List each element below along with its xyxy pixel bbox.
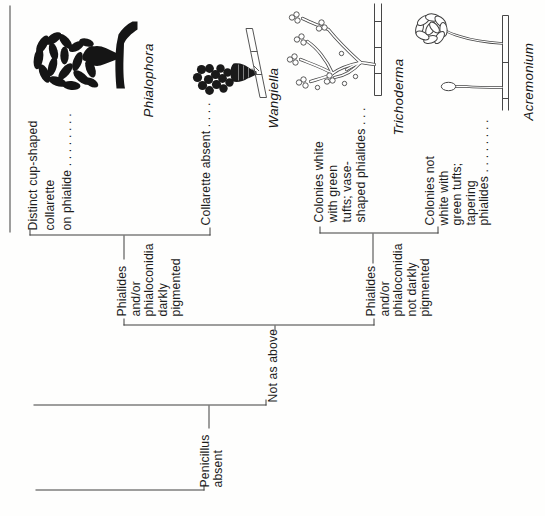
- key-bracket-level1: [33, 404, 266, 405]
- key-line-root-branch: [35, 489, 204, 490]
- key-leaf-wangiella-text: Collarette absent . . . .: [198, 102, 212, 225]
- figure-canvas: Penicillus absent Not as above Phialides…: [0, 0, 545, 516]
- key-node-darkly-pigmented: Phialides and/or phialoconidia darkly pi…: [115, 243, 183, 316]
- key-leaf-acremonium-text: Colonies not white with green tufts; tap…: [423, 119, 491, 225]
- conidial-cluster: [296, 76, 308, 87]
- key-line-top-rule: [9, 5, 10, 232]
- key-bracket-level2-bottom-foot: [373, 318, 374, 325]
- key-not-as-above-label: Not as above: [265, 328, 279, 402]
- genus-label-phialophora: Phialophora: [140, 43, 155, 117]
- key-root-label: Penicillus absent: [198, 434, 224, 487]
- illustration-acremonium: [410, 2, 514, 113]
- key-bracket-light-pair: [319, 232, 438, 233]
- genus-label-trichoderma: Trichoderma: [390, 58, 405, 135]
- key-bracket-light-bottom-foot: [437, 226, 438, 233]
- key-tick-penicillus: [208, 405, 209, 428]
- key-bracket-dark-pair: [29, 234, 210, 235]
- conidial-knot: [414, 13, 448, 45]
- key-bracket-light-top-foot: [319, 226, 320, 233]
- key-bracket-level2: [123, 324, 374, 325]
- key-leaf-phialophora-text: Distinct cup-shaped collarette on phiali…: [24, 113, 75, 230]
- key-root-line1: Penicillus: [198, 434, 211, 487]
- illustration-trichoderma: [284, 2, 388, 143]
- key-node-not-darkly-pigmented: Phialides and/or phialoconidia not darkl…: [364, 243, 432, 316]
- illustration-phialophora: [20, 1, 140, 101]
- key-root-line2: absent: [211, 434, 224, 487]
- key-bracket-level2-top-foot: [123, 318, 124, 325]
- key-bracket-dark-bottom-foot: [209, 227, 210, 235]
- rotated-key-figure: Penicillus absent Not as above Phialides…: [0, 0, 545, 516]
- illustration-wangiella: [160, 19, 272, 111]
- genus-label-acremonium: Acremonium: [520, 42, 535, 120]
